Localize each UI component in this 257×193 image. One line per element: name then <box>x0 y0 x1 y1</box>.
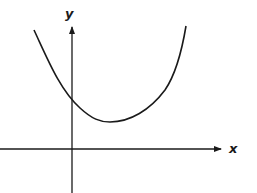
parabola-curve <box>34 26 186 122</box>
parabola-figure: y x <box>0 0 257 193</box>
chart-canvas: y x <box>0 0 257 193</box>
x-axis-label: x <box>228 141 238 156</box>
y-axis-label: y <box>65 6 74 21</box>
